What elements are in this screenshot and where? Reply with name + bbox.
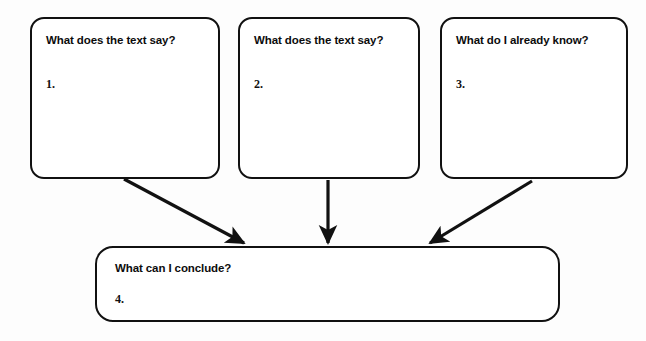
arrow-box3-to-box4 <box>430 181 532 243</box>
question-box-1: What does the text say? 1. <box>30 17 220 179</box>
conclusion-box-heading: What can I conclude? <box>115 261 415 276</box>
question-box-3: What do I already know? 3. <box>440 17 628 179</box>
question-box-2-number: 2. <box>254 77 263 92</box>
question-box-1-number: 1. <box>46 77 55 92</box>
conclusion-box-number: 4. <box>115 292 124 307</box>
question-box-3-number: 3. <box>456 77 465 92</box>
question-box-2: What does the text say? 2. <box>238 17 420 179</box>
diagram-canvas: What does the text say? 1. What does the… <box>0 0 646 341</box>
question-box-2-heading: What does the text say? <box>254 33 414 48</box>
question-box-1-heading: What does the text say? <box>46 33 211 48</box>
arrow-box1-to-box4 <box>124 179 244 243</box>
conclusion-box: What can I conclude? 4. <box>95 246 560 322</box>
question-box-3-heading: What do I already know? <box>456 33 621 48</box>
